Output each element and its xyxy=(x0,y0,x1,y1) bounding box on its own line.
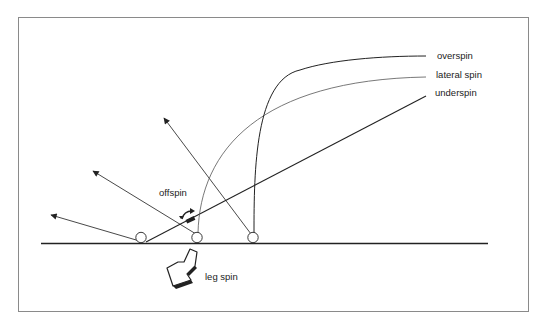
leg-spin-icon xyxy=(167,249,197,289)
leg-spin-label: leg spin xyxy=(205,272,238,282)
ball-right xyxy=(248,232,258,242)
overspin-label: overspin xyxy=(437,51,473,61)
underspin-label: underspin xyxy=(435,88,477,98)
ball-left xyxy=(136,232,146,242)
ball-middle xyxy=(192,232,202,242)
offspin-icon xyxy=(179,208,195,224)
overspin-trajectory xyxy=(254,56,426,233)
rebound-arrow-high xyxy=(164,118,251,234)
lateral-spin-label: lateral spin xyxy=(436,70,482,80)
rebound-arrow-low xyxy=(51,215,143,242)
offspin-label: offspin xyxy=(159,188,187,198)
